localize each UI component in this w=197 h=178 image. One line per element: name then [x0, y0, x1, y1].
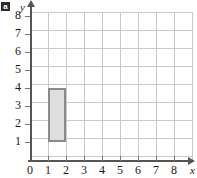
- y-axis-tick-label: 7: [7, 26, 21, 41]
- y-axis-tick: [25, 52, 30, 53]
- x-axis-tick: [174, 156, 175, 161]
- y-axis-arrow-icon: [27, 0, 35, 7]
- gridline-horizontal: [30, 84, 192, 85]
- y-axis-tick: [25, 34, 30, 35]
- x-axis-tick-label: 3: [77, 163, 91, 178]
- y-axis-tick: [25, 124, 30, 125]
- y-axis-tick-label: 3: [7, 98, 21, 113]
- x-axis-label: x: [190, 164, 195, 176]
- x-axis-tick: [138, 156, 139, 161]
- y-axis-tick-label: 5: [7, 62, 21, 77]
- y-axis-tick-label: 2: [7, 116, 21, 131]
- x-axis-tick-label: 8: [167, 163, 181, 178]
- gridline-vertical: [192, 12, 193, 160]
- gridline-horizontal: [30, 66, 192, 67]
- x-axis-tick: [84, 156, 85, 161]
- y-axis-tick: [25, 142, 30, 143]
- x-axis-tick: [156, 156, 157, 161]
- x-axis-tick: [102, 156, 103, 161]
- y-axis-tick-label: 4: [7, 80, 21, 95]
- gridline-horizontal: [30, 12, 192, 13]
- shaded-rectangle: [48, 88, 66, 142]
- y-axis-line: [30, 6, 32, 162]
- x-axis-tick-label: 0: [23, 163, 37, 178]
- y-axis-tick: [25, 70, 30, 71]
- coordinate-grid-figure: a y x 12345678012345678: [0, 0, 197, 178]
- y-axis-tick: [25, 88, 30, 89]
- x-axis-tick-label: 5: [113, 163, 127, 178]
- gridline-horizontal: [30, 156, 192, 157]
- y-axis-tick: [25, 106, 30, 107]
- x-axis-tick-label: 4: [95, 163, 109, 178]
- y-axis-tick-label: 6: [7, 44, 21, 59]
- x-axis-tick: [66, 156, 67, 161]
- gridline-horizontal: [30, 48, 192, 49]
- x-axis-tick-label: 2: [59, 163, 73, 178]
- x-axis-tick-label: 7: [149, 163, 163, 178]
- gridline-horizontal: [30, 30, 192, 31]
- x-axis-tick: [48, 156, 49, 161]
- x-axis-tick: [120, 156, 121, 161]
- y-axis-tick-label: 1: [7, 134, 21, 149]
- y-axis-tick: [25, 16, 30, 17]
- x-axis-line: [28, 160, 190, 162]
- x-axis-tick-label: 1: [41, 163, 55, 178]
- y-axis-tick-label: 8: [7, 8, 21, 23]
- x-axis-tick-label: 6: [131, 163, 145, 178]
